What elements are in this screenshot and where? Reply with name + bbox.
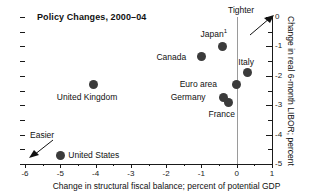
- y-axis-tick-label: -4: [275, 131, 282, 139]
- chart-title: Policy Changes, 2000–04: [37, 12, 146, 22]
- x-axis-tick-label: -5: [49, 169, 71, 179]
- y-axis-tick-label: 0: [275, 13, 279, 21]
- x-axis-tick: [96, 164, 97, 168]
- x-axis-tick: [166, 164, 167, 168]
- plot-area: Policy Changes, 2000–04 -6-5-4-3-2-1010-…: [0, 0, 333, 196]
- y-axis-left-dash: [20, 135, 25, 136]
- x-axis-tick-label: -4: [85, 169, 107, 179]
- y-axis-label: Change in real 6-month LIBOR; percent: [286, 16, 296, 166]
- x-axis-minor-tick: [184, 164, 185, 166]
- data-point-label: Japan1: [201, 29, 228, 39]
- data-point-marker: [232, 80, 241, 89]
- y-axis-minor-tick: [268, 149, 272, 150]
- data-point-label: Canada: [156, 52, 186, 62]
- y-axis-minor-tick: [268, 91, 272, 92]
- x-axis-tick-label: -2: [155, 169, 177, 179]
- data-point-marker: [56, 151, 65, 160]
- y-axis-left-dash: [20, 61, 25, 62]
- y-axis-tick-label: -3: [275, 101, 282, 109]
- x-axis-tick: [131, 164, 132, 168]
- y-axis-left-dash: [20, 32, 25, 33]
- data-point-marker: [224, 98, 233, 107]
- y-axis-tick: [266, 76, 272, 77]
- y-axis-tick: [266, 105, 272, 106]
- data-point-marker: [197, 52, 206, 61]
- data-point-marker: [89, 80, 98, 89]
- x-axis-minor-tick: [78, 164, 79, 166]
- y-axis-tick-label: -2: [275, 72, 282, 80]
- y-axis-left-dash: [20, 164, 25, 165]
- data-point-label: United States: [68, 150, 119, 160]
- annotation-easier-arrow-icon: [28, 139, 54, 159]
- data-point-label: Italy: [238, 57, 254, 67]
- x-axis-tick-label: 1: [261, 169, 283, 179]
- y-axis-tick-label: -5: [275, 160, 282, 168]
- data-point-marker: [243, 68, 252, 77]
- x-axis-label: Change in structural fiscal balance; per…: [0, 181, 333, 191]
- y-axis-line-right: [272, 17, 273, 164]
- y-axis-left-dash: [20, 120, 25, 121]
- x-axis-tick-label: 0: [226, 169, 248, 179]
- footnote-marker: 1: [224, 29, 227, 35]
- x-axis-minor-tick: [219, 164, 220, 166]
- y-axis-left-dash: [20, 46, 25, 47]
- data-point-marker: [218, 42, 227, 51]
- y-axis-tick-label: -1: [275, 42, 282, 50]
- data-point-label: Euro area: [180, 79, 217, 89]
- x-axis-tick: [60, 164, 61, 168]
- x-axis-minor-tick: [43, 164, 44, 166]
- zero-reference-line: [237, 17, 238, 164]
- title-dash-marker: [20, 17, 25, 18]
- policy-changes-scatter-chart: Policy Changes, 2000–04 -6-5-4-3-2-1010-…: [0, 0, 333, 196]
- x-axis-tick: [272, 164, 273, 168]
- y-axis-tick: [266, 46, 272, 47]
- data-point-label: France: [209, 109, 235, 119]
- x-axis-tick: [201, 164, 202, 168]
- y-axis-tick: [266, 135, 272, 136]
- x-axis-minor-tick: [149, 164, 150, 166]
- y-axis-minor-tick: [268, 61, 272, 62]
- x-axis-minor-tick: [113, 164, 114, 166]
- annotation-tighter-arrow-icon: [249, 14, 275, 36]
- y-axis-tick: [266, 164, 272, 165]
- x-axis-tick-label: -6: [14, 169, 36, 179]
- y-axis-left-dash: [20, 91, 25, 92]
- y-axis-left-dash: [20, 149, 25, 150]
- y-axis-left-dash: [20, 105, 25, 106]
- x-axis-tick-label: -3: [120, 169, 142, 179]
- y-axis-minor-tick: [268, 120, 272, 121]
- y-axis-left-dash: [20, 76, 25, 77]
- x-axis-tick: [237, 164, 238, 168]
- x-axis-tick-label: -1: [190, 169, 212, 179]
- x-axis-tick: [25, 164, 26, 168]
- data-point-label: Germany: [171, 92, 206, 102]
- data-point-label: United Kingdom: [57, 92, 117, 102]
- x-axis-minor-tick: [254, 164, 255, 166]
